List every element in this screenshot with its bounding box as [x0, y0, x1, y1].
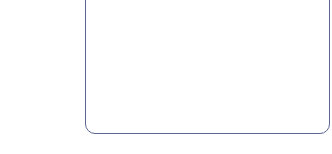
viewport [0, 0, 332, 154]
panel-content [86, 0, 329, 133]
empty-panel [85, 0, 330, 134]
